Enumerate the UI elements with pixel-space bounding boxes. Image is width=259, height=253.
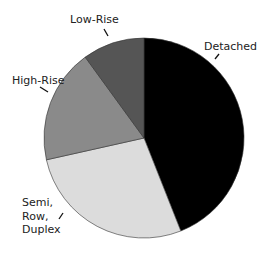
slice-label: Low-Rise <box>70 13 119 27</box>
slice-label: Detached <box>204 40 257 54</box>
leader-tick <box>215 54 219 59</box>
leader-tick <box>104 29 108 36</box>
slice-label: High-Rise <box>12 74 64 88</box>
pie-slices <box>44 38 244 238</box>
leader-tick <box>40 87 48 92</box>
slice-label: Semi, Row, Duplex <box>22 196 61 237</box>
